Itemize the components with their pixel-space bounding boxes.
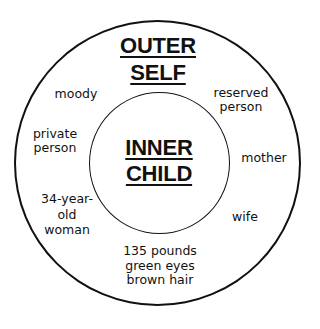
- label-34-year-old-woman-line-1: 34-year-: [41, 191, 93, 207]
- label-34-year-old-woman: 34-year- old woman: [41, 191, 93, 238]
- label-moody-line-1: moody: [55, 87, 98, 101]
- label-reserved-person: reserved person: [214, 86, 269, 114]
- label-private-person: private person: [33, 127, 77, 155]
- label-private-person-line-2: person: [33, 141, 77, 155]
- inner-child-title-line-1: INNER: [125, 137, 192, 159]
- label-34-year-old-woman-line-2: old: [41, 207, 93, 223]
- label-reserved-person-line-1: reserved: [214, 86, 269, 100]
- outer-self-title-line-1: OUTER: [120, 35, 196, 57]
- inner-child-title-line-2: CHILD: [126, 163, 192, 185]
- label-reserved-person-line-2: person: [214, 100, 269, 114]
- outer-self-title-line-2: SELF: [130, 62, 185, 84]
- label-private-person-line-1: private: [33, 127, 77, 141]
- label-physical-description-line-2: green eyes: [123, 259, 197, 274]
- label-34-year-old-woman-line-3: woman: [41, 222, 93, 238]
- label-mother-line-1: mother: [241, 151, 286, 165]
- label-physical-description-line-3: brown hair: [123, 273, 197, 288]
- label-mother: mother: [241, 151, 286, 165]
- label-wife: wife: [232, 210, 258, 224]
- label-moody: moody: [55, 87, 98, 101]
- label-wife-line-1: wife: [232, 210, 258, 224]
- label-physical-description: 135 pounds green eyes brown hair: [123, 244, 197, 288]
- label-physical-description-line-1: 135 pounds: [123, 244, 197, 259]
